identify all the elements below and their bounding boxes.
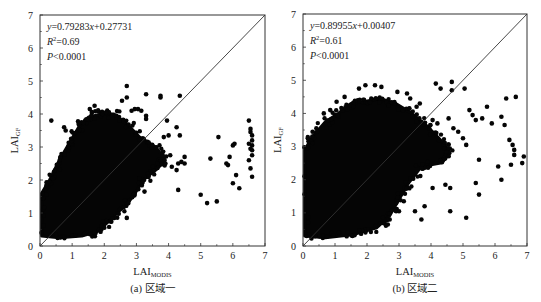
panel-caption: (b) 区域二 (393, 282, 438, 295)
y-axis-title: LAIGF (272, 127, 284, 153)
data-point (407, 107, 411, 111)
data-point (168, 153, 173, 158)
data-point (337, 231, 341, 235)
y-tick-label: 6 (28, 43, 33, 54)
data-point (414, 164, 418, 168)
data-point (446, 146, 450, 150)
data-point (117, 212, 121, 216)
x-tick-label: 3 (397, 250, 402, 261)
data-point (430, 186, 435, 191)
data-point (72, 131, 76, 135)
data-point (464, 216, 469, 221)
data-point (490, 121, 495, 126)
data-point (101, 220, 105, 224)
data-point (124, 125, 128, 129)
data-point (325, 234, 329, 238)
data-point (163, 161, 168, 166)
data-point (174, 125, 179, 130)
data-point (158, 95, 163, 100)
data-point (439, 132, 443, 136)
data-point (434, 81, 439, 86)
data-point (417, 116, 421, 120)
data-point (77, 128, 81, 132)
p-value-label: P<0.0001 (309, 50, 349, 61)
data-point (137, 176, 142, 181)
data-point (125, 216, 130, 221)
data-point (380, 96, 384, 100)
data-point (231, 181, 236, 186)
data-point (152, 172, 156, 176)
x-tick-label: 6 (230, 250, 235, 261)
data-point (377, 100, 381, 104)
data-point (408, 96, 413, 101)
data-point (248, 166, 253, 171)
data-point (182, 155, 187, 160)
data-point (345, 234, 349, 238)
x-tick-label: 6 (493, 250, 498, 261)
data-point (351, 105, 355, 109)
data-point (142, 189, 147, 194)
y-tick-label: 3 (291, 141, 296, 152)
data-point (328, 108, 333, 113)
data-point (88, 232, 92, 236)
data-point (392, 100, 396, 104)
data-point (415, 174, 419, 178)
data-point (42, 205, 46, 209)
data-point (402, 199, 407, 204)
data-point (413, 209, 418, 214)
data-point (404, 187, 408, 191)
data-point (122, 205, 126, 209)
data-point (205, 201, 210, 206)
data-point (342, 95, 347, 100)
data-point (144, 92, 149, 97)
data-point (176, 188, 181, 193)
data-point (82, 232, 86, 236)
data-point (306, 136, 311, 141)
data-point (121, 119, 125, 123)
data-point (434, 131, 438, 135)
data-point (166, 133, 171, 138)
data-point (130, 195, 134, 199)
data-point (182, 161, 187, 166)
data-point (374, 96, 378, 100)
data-point (151, 164, 155, 168)
x-tick-label: 5 (461, 250, 466, 261)
data-point (104, 110, 109, 115)
data-point (474, 118, 479, 123)
data-point (178, 133, 183, 138)
data-point (379, 85, 384, 90)
data-point (520, 161, 525, 166)
data-point (485, 105, 490, 110)
x-tick-label: 4 (166, 250, 171, 261)
data-point (155, 161, 160, 166)
data-point (334, 100, 339, 105)
data-point (422, 116, 426, 120)
x-tick-label: 7 (525, 250, 530, 261)
data-point (44, 193, 49, 198)
data-point (509, 163, 514, 168)
data-point (51, 176, 56, 181)
data-point (456, 129, 461, 134)
y-tick-label: 4 (28, 109, 33, 120)
data-point (374, 230, 378, 234)
data-point (420, 162, 424, 166)
data-point (310, 129, 315, 134)
data-point (430, 118, 435, 123)
data-point (63, 128, 68, 133)
data-point (216, 135, 221, 140)
data-point (499, 114, 504, 119)
data-point (357, 228, 361, 232)
data-point (165, 118, 170, 123)
data-point (47, 173, 51, 177)
data-point (126, 201, 131, 206)
data-point (395, 195, 399, 199)
data-point (130, 123, 134, 127)
y-tick-label: 0 (291, 241, 296, 252)
data-point (208, 156, 213, 161)
data-point (317, 234, 321, 238)
data-point (496, 164, 501, 169)
data-point (58, 167, 62, 171)
data-point (306, 215, 310, 219)
data-point (435, 121, 440, 126)
data-point (437, 138, 441, 142)
